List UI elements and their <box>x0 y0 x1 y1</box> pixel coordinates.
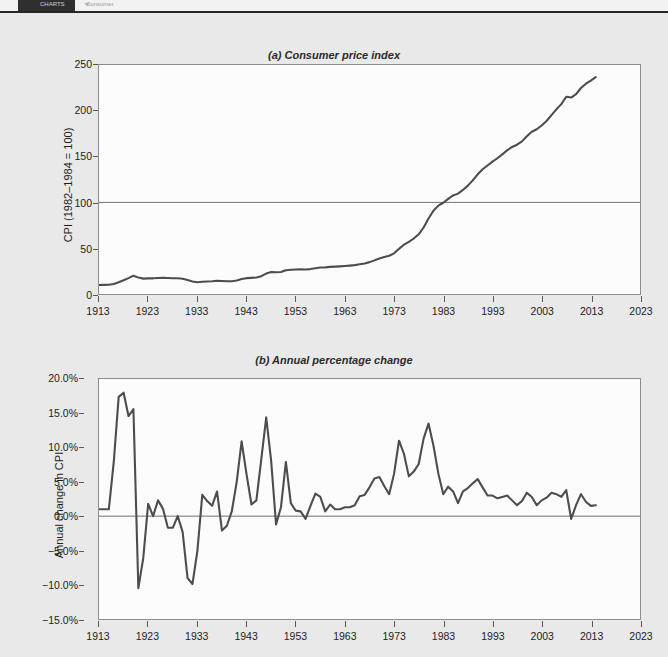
x-tick-mark <box>295 296 296 302</box>
y-tick-mark <box>79 516 84 517</box>
x-tick-mark <box>246 621 247 627</box>
y-tick-mark <box>79 378 84 379</box>
panel-b-title: (b) Annual percentage change <box>0 354 668 366</box>
panel-a-y-ticks: 050100150200250 <box>40 64 92 295</box>
panel-b-series-line <box>99 393 596 588</box>
x-tick-label: 1993 <box>481 630 504 642</box>
x-tick-label: 1953 <box>284 305 307 317</box>
x-tick-label: 2023 <box>629 305 652 317</box>
x-tick-mark <box>197 296 198 302</box>
x-tick-mark <box>493 621 494 627</box>
app-menu-label: CHARTS <box>40 0 65 10</box>
y-tick-mark <box>79 413 84 414</box>
x-tick-mark <box>444 621 445 627</box>
x-tick-mark <box>246 296 247 302</box>
x-tick-mark <box>394 621 395 627</box>
y-tick-label: −10.0% <box>42 579 78 591</box>
y-tick-label: 200 <box>74 104 92 116</box>
x-tick-mark <box>345 621 346 627</box>
x-tick-label: 1943 <box>234 305 257 317</box>
y-tick-label: 0.0% <box>54 510 78 522</box>
y-tick-label: −5.0% <box>48 545 78 557</box>
x-tick-label: 1933 <box>185 630 208 642</box>
panel-b-y-ticks: −15.0%−10.0%−5.0%0.0%5.0%10.0%15.0%20.0% <box>26 378 78 620</box>
y-tick-label: 50 <box>80 243 92 255</box>
x-tick-label: 1913 <box>86 630 109 642</box>
y-tick-label: 5.0% <box>54 476 78 488</box>
toolbar-divider <box>0 11 668 13</box>
x-tick-mark <box>98 621 99 627</box>
chart-panel-cpi-index: (a) Consumer price index CPI (1982–1984 … <box>0 16 668 346</box>
x-tick-mark <box>394 296 395 302</box>
y-tick-mark <box>79 620 84 621</box>
panel-b-plot-area <box>98 378 641 620</box>
y-tick-label: 250 <box>74 58 92 70</box>
x-tick-label: 1943 <box>234 630 257 642</box>
x-tick-label: 1983 <box>432 305 455 317</box>
x-tick-label: 1963 <box>333 630 356 642</box>
x-tick-label: 2023 <box>629 630 652 642</box>
x-tick-mark <box>197 621 198 627</box>
x-tick-label: 2013 <box>580 630 603 642</box>
x-tick-label: 1973 <box>382 630 405 642</box>
x-tick-mark <box>641 296 642 302</box>
toolbar-tab[interactable]: Consumer <box>86 0 114 10</box>
x-tick-mark <box>542 296 543 302</box>
y-tick-mark <box>79 482 84 483</box>
y-tick-label: 100 <box>74 197 92 209</box>
y-tick-label: 150 <box>74 150 92 162</box>
x-tick-mark <box>444 296 445 302</box>
x-tick-label: 1983 <box>432 630 455 642</box>
y-tick-mark <box>79 585 84 586</box>
x-tick-label: 1913 <box>86 305 109 317</box>
x-tick-mark <box>641 621 642 627</box>
panel-a-x-ticks: 1913192319331943195319631973198319932003… <box>98 296 641 322</box>
x-tick-label: 1963 <box>333 305 356 317</box>
x-tick-mark <box>345 296 346 302</box>
x-tick-label: 1953 <box>284 630 307 642</box>
panel-a-series-line <box>99 77 596 285</box>
panel-b-x-ticks: 1913192319331943195319631973198319932003… <box>98 621 641 647</box>
x-tick-mark <box>98 296 99 302</box>
x-tick-label: 2003 <box>531 630 554 642</box>
y-tick-mark <box>79 551 84 552</box>
chart-panel-annual-change: (b) Annual percentage change Annual chan… <box>0 340 668 657</box>
x-tick-mark <box>493 296 494 302</box>
panel-b-svg <box>99 379 640 619</box>
y-tick-label: 10.0% <box>48 441 78 453</box>
x-tick-mark <box>147 621 148 627</box>
x-tick-label: 1973 <box>382 305 405 317</box>
y-tick-mark <box>79 447 84 448</box>
x-tick-label: 1923 <box>136 305 159 317</box>
app-menu-button[interactable]: CHARTS <box>18 0 75 11</box>
x-tick-mark <box>592 621 593 627</box>
panel-a-title: (a) Consumer price index <box>0 49 668 61</box>
y-tick-label: 0 <box>86 289 92 301</box>
panel-a-plot-area <box>98 64 641 295</box>
x-tick-label: 1923 <box>136 630 159 642</box>
x-tick-mark <box>295 621 296 627</box>
x-tick-mark <box>147 296 148 302</box>
x-tick-label: 2013 <box>580 305 603 317</box>
x-tick-mark <box>542 621 543 627</box>
y-tick-label: −15.0% <box>42 614 78 626</box>
x-tick-mark <box>592 296 593 302</box>
panel-a-svg <box>99 65 640 294</box>
x-tick-label: 1933 <box>185 305 208 317</box>
y-tick-label: 20.0% <box>48 372 78 384</box>
y-tick-label: 15.0% <box>48 407 78 419</box>
x-tick-label: 1993 <box>481 305 504 317</box>
x-tick-label: 2003 <box>531 305 554 317</box>
